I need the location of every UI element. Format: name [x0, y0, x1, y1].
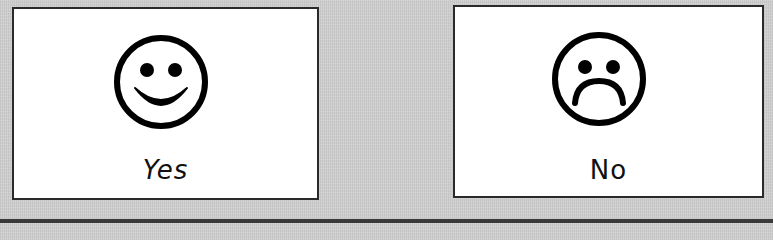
- yes-card[interactable]: Yes: [12, 7, 319, 200]
- yes-label: Yes: [14, 155, 317, 185]
- no-label: No: [455, 155, 762, 185]
- no-card[interactable]: No: [453, 5, 764, 198]
- bottom-divider: [0, 219, 773, 223]
- smiley-face-icon: [113, 34, 209, 130]
- sad-face-icon: [551, 31, 647, 127]
